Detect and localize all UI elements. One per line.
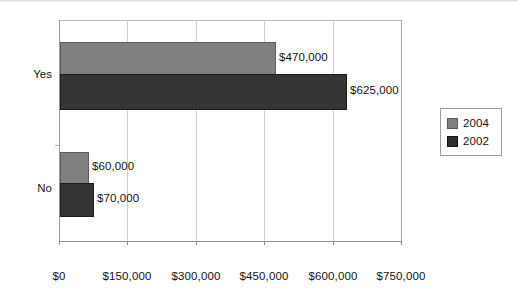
legend: 2004 2002 [440,108,502,156]
category-label-no: No [8,182,52,194]
bar-label-yes-2002: $625,000 [350,84,399,96]
bar-no-2002 [60,183,94,217]
x-tick-150000 [127,241,128,245]
category-label-yes: Yes [8,68,52,80]
plot-border-right [401,20,402,242]
y-tick-separator [55,145,59,146]
legend-item-2004: 2004 [447,114,501,132]
x-tick-750000 [401,241,402,245]
x-tick-label-450000: $450,000 [240,270,289,282]
legend-swatch-2004-icon [447,118,458,129]
x-tick-label-0: $0 [53,270,66,282]
bar-label-yes-2004: $470,000 [279,51,328,63]
scan-edge [0,0,518,3]
x-tick-0 [59,241,60,245]
bar-chart: $470,000 $625,000 $60,000 $70,000 $0 $15… [0,0,518,288]
bar-label-no-2002: $70,000 [97,192,139,204]
x-tick-600000 [333,241,334,245]
legend-label-2004: 2004 [463,117,489,129]
x-tick-300000 [196,241,197,245]
x-tick-450000 [264,241,265,245]
bar-no-2004 [60,152,89,185]
bar-yes-2004 [60,42,276,76]
plot-border-top [59,20,402,21]
gridline-600000 [333,20,334,242]
bar-yes-2002 [60,74,347,110]
x-tick-label-150000: $150,000 [103,270,152,282]
legend-label-2002: 2002 [463,135,489,147]
bar-label-no-2004: $60,000 [92,160,134,172]
legend-swatch-2002-icon [447,136,458,147]
plot-area: $470,000 $625,000 $60,000 $70,000 $0 $15… [59,20,401,242]
x-tick-label-600000: $600,000 [309,270,358,282]
x-tick-label-300000: $300,000 [172,270,221,282]
x-tick-label-750000: $750,000 [377,270,426,282]
legend-item-2002: 2002 [447,132,501,150]
x-axis-line [59,241,402,242]
